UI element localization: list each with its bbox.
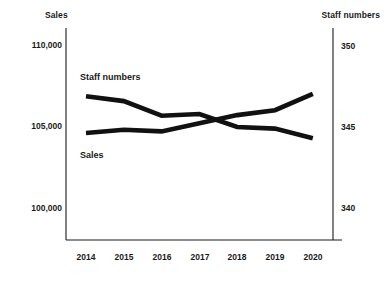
chart-container: Sales Staff numbers 110,000 105,000 100,… (0, 0, 386, 286)
plot-area (0, 0, 386, 286)
